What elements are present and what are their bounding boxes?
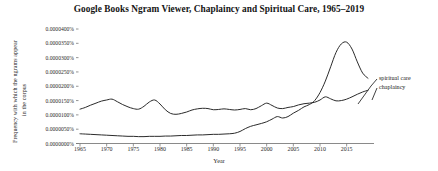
annotation-leader-lines xyxy=(358,79,377,104)
x-axis-title: Year xyxy=(0,157,438,164)
leader-line-spiritual-care xyxy=(358,79,377,104)
leader-line-chaplaincy xyxy=(372,88,377,100)
ngram-chart-figure: Google Books Ngram Viewer, Chaplaincy an… xyxy=(0,0,438,171)
x-axis-tick-label: 1985 xyxy=(181,146,193,152)
series-line-chaplaincy xyxy=(80,90,368,114)
y-axis-title-line-1: Frequency with which the ngrams appear xyxy=(12,40,18,143)
x-axis-tick-label: 1965 xyxy=(74,146,86,152)
series-line-spiritual-care xyxy=(80,42,368,137)
x-axis-tick-label: 1990 xyxy=(207,146,219,152)
x-axis-tick-label: 1995 xyxy=(234,146,246,152)
x-axis-tick-label: 2010 xyxy=(314,146,326,152)
y-axis-tick-label: 0.0000400% xyxy=(2,26,74,32)
series-label-chaplaincy: chaplaincy xyxy=(379,84,405,90)
x-axis-tick-label: 1980 xyxy=(154,146,166,152)
plot-area: 0.0000000%0.0000050%0.0000100%0.0000150%… xyxy=(0,0,438,171)
x-axis-tick-label: 2015 xyxy=(341,146,353,152)
series-label-spiritual-care: spiritual care xyxy=(379,75,411,81)
data-series-lines xyxy=(80,42,368,137)
y-axis-title-line-2: in the corpus xyxy=(21,84,27,116)
x-axis-tick-label: 1970 xyxy=(101,146,113,152)
x-axis-tick-label: 2000 xyxy=(261,146,273,152)
x-axis-tick-label: 1975 xyxy=(127,146,139,152)
y-axis-ticks xyxy=(76,29,79,144)
x-axis-tick-label: 2005 xyxy=(287,146,299,152)
